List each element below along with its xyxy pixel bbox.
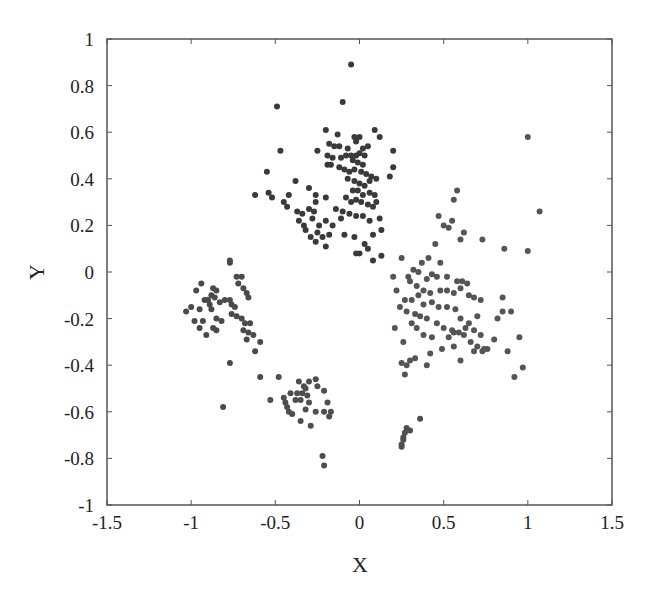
data-point	[474, 313, 480, 319]
data-point	[208, 306, 214, 312]
data-point	[439, 346, 445, 352]
data-point	[320, 453, 326, 459]
data-point	[353, 197, 359, 203]
data-point	[437, 288, 443, 294]
data-point	[188, 304, 194, 310]
data-point	[311, 208, 317, 214]
data-point	[345, 176, 351, 182]
data-point	[192, 318, 198, 324]
data-point	[345, 146, 351, 152]
data-point	[326, 141, 332, 147]
data-point	[516, 334, 522, 340]
data-point	[365, 143, 371, 149]
data-point	[286, 192, 292, 198]
data-point	[451, 330, 457, 336]
data-point	[451, 344, 457, 350]
data-point	[463, 325, 469, 331]
data-point	[397, 304, 403, 310]
data-point	[451, 197, 457, 203]
data-point	[247, 320, 253, 326]
data-point	[478, 332, 484, 338]
data-point	[267, 397, 273, 403]
data-point	[313, 192, 319, 198]
data-point	[484, 346, 490, 352]
data-point	[313, 376, 319, 382]
data-point	[372, 192, 378, 198]
data-point	[479, 236, 485, 242]
data-point	[466, 292, 472, 298]
data-point	[336, 143, 342, 149]
data-point	[464, 281, 470, 287]
data-point	[198, 281, 204, 287]
data-point	[244, 337, 250, 343]
data-point	[390, 164, 396, 170]
data-point	[434, 274, 440, 280]
data-point	[458, 316, 464, 322]
data-point	[203, 332, 209, 338]
data-point	[321, 388, 327, 394]
data-point	[402, 297, 408, 303]
y-tick-label: -1	[78, 495, 94, 516]
data-point	[436, 213, 442, 219]
data-point	[360, 192, 366, 198]
data-point	[212, 295, 218, 301]
data-point	[338, 215, 344, 221]
y-tick-label: 0	[85, 262, 95, 283]
x-tick-label: -0.5	[260, 512, 290, 533]
data-point	[511, 374, 517, 380]
series-cluster-bottom	[267, 374, 423, 469]
y-axis-label: Y	[24, 264, 49, 280]
data-point	[427, 351, 433, 357]
data-point	[412, 355, 418, 361]
y-tick-label: -0.4	[64, 355, 95, 376]
data-point	[424, 316, 430, 322]
data-point	[399, 255, 405, 261]
data-point	[323, 218, 329, 224]
data-point	[458, 358, 464, 364]
data-points	[183, 62, 542, 469]
y-tick-label: 1	[85, 29, 95, 50]
data-point	[441, 325, 447, 331]
data-point	[367, 218, 373, 224]
y-tick-label: 0.4	[70, 169, 94, 190]
data-point	[309, 215, 315, 221]
data-point	[313, 239, 319, 245]
data-point	[330, 222, 336, 228]
y-axis-ticks: -1-0.8-0.6-0.4-0.200.20.40.60.81	[64, 29, 612, 516]
data-point	[330, 155, 336, 161]
data-point	[390, 148, 396, 154]
data-point	[284, 204, 290, 210]
data-point	[508, 309, 514, 315]
data-point	[355, 160, 361, 166]
data-point	[360, 162, 366, 168]
data-point	[501, 246, 507, 252]
data-point	[392, 325, 398, 331]
data-point	[288, 390, 294, 396]
data-point	[427, 290, 433, 296]
data-point	[458, 285, 464, 291]
data-point	[491, 337, 497, 343]
data-point	[505, 348, 511, 354]
data-point	[299, 211, 305, 217]
data-point	[414, 325, 420, 331]
data-point	[276, 374, 282, 380]
data-point	[353, 139, 359, 145]
data-point	[525, 248, 531, 254]
data-point	[335, 132, 341, 138]
data-point	[200, 318, 206, 324]
data-point	[298, 418, 304, 424]
data-point	[314, 383, 320, 389]
data-point	[365, 246, 371, 252]
data-point	[471, 327, 477, 333]
data-point	[269, 194, 275, 200]
data-point	[407, 278, 413, 284]
data-point	[461, 332, 467, 338]
data-point	[378, 227, 384, 233]
data-point	[296, 379, 302, 385]
data-point	[353, 250, 359, 256]
data-point	[326, 414, 332, 420]
x-tick-label: -1.5	[92, 512, 122, 533]
data-point	[340, 208, 346, 214]
data-point	[373, 176, 379, 182]
data-point	[437, 260, 443, 266]
